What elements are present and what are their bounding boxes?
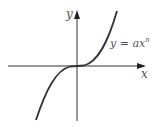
y-axis-label: y: [65, 7, 73, 21]
y-axis-arrow-icon: [74, 10, 80, 19]
power-function-graph: y x y = axn: [0, 0, 158, 131]
x-axis-label: x: [141, 67, 148, 81]
curve-label: y = axn: [109, 36, 150, 50]
